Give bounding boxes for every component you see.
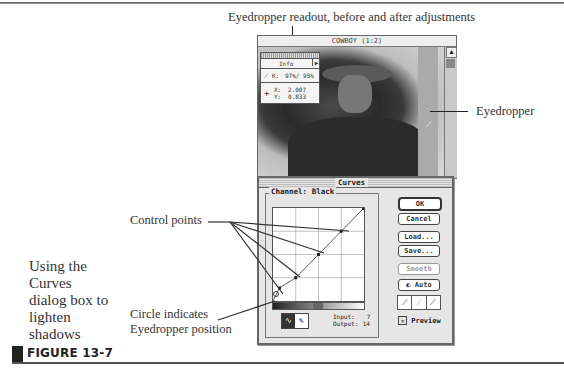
figure-label: FIGURE 13-7 xyxy=(27,346,113,360)
bottom-rule xyxy=(12,362,564,364)
figure-caption: Using the Curves dialog box to lighten s… xyxy=(29,258,109,343)
callout-circle-line2: Eyedropper position xyxy=(130,322,232,337)
callout-circle-line1: Circle indicates xyxy=(130,307,208,322)
